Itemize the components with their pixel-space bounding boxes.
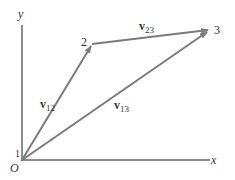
vector-v13 xyxy=(22,32,207,160)
vector-v23-label: v23 xyxy=(139,20,154,35)
x-axis-label: x xyxy=(211,154,216,166)
point-2-label: 2 xyxy=(81,36,87,48)
vector-subscript: 23 xyxy=(145,25,154,35)
vector-v12-label: v12 xyxy=(40,98,55,113)
origin-label: O xyxy=(10,162,19,174)
vector-v12 xyxy=(22,46,91,160)
point-1-label: 1 xyxy=(15,149,20,159)
vector-v13-label: v13 xyxy=(114,99,129,114)
y-axis-label: y xyxy=(18,8,23,20)
vector-subscript: 13 xyxy=(120,104,129,114)
point-3-label: 3 xyxy=(214,24,220,36)
vector-subscript: 12 xyxy=(46,103,55,113)
vector-diagram: y x O 1 2 3 v12 v23 v13 xyxy=(0,0,235,180)
diagram-canvas xyxy=(0,0,235,180)
